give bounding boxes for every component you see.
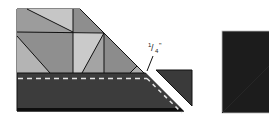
inch-mark: " (159, 42, 162, 49)
quilt-diagram (0, 0, 269, 119)
pieced-triangle-unit (17, 9, 144, 73)
annotation-leader (147, 56, 153, 71)
fraction-slash: / (151, 44, 154, 53)
fraction-denominator: 4 (155, 48, 158, 54)
black-square (222, 31, 269, 113)
dark-border-strip (17, 73, 184, 113)
seam-allowance-label: 1 / 4 " (146, 41, 166, 55)
